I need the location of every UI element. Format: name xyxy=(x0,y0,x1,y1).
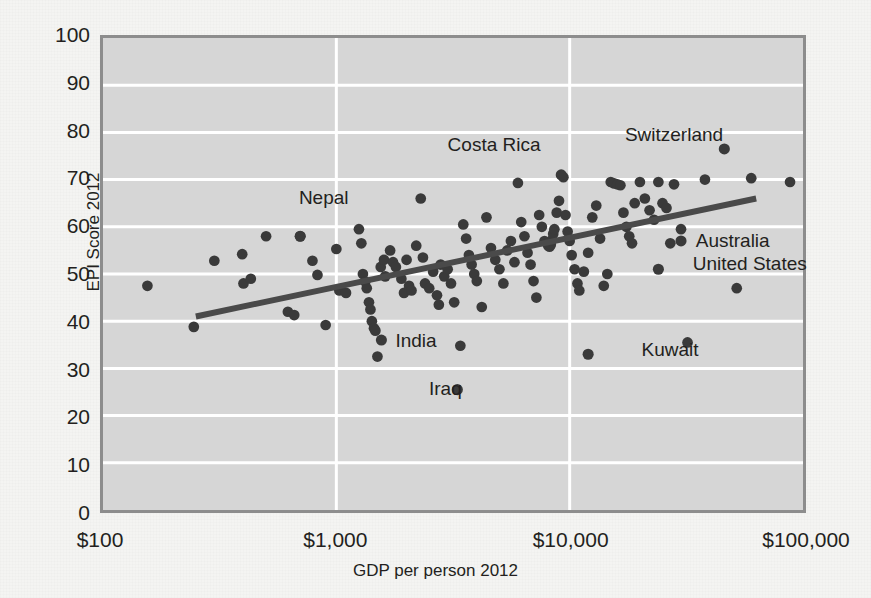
highlighted-data-point xyxy=(719,143,730,154)
data-point xyxy=(785,177,796,188)
data-point xyxy=(455,340,466,351)
data-point xyxy=(245,273,256,284)
data-point xyxy=(653,177,664,188)
data-point xyxy=(591,200,602,211)
data-point xyxy=(356,238,367,249)
data-point xyxy=(237,249,248,260)
data-point xyxy=(574,285,585,296)
x-axis-tick-label: $1,000 xyxy=(303,529,367,550)
data-point xyxy=(446,278,457,289)
data-point xyxy=(385,245,396,256)
data-point xyxy=(598,280,609,291)
highlighted-data-point xyxy=(376,335,387,346)
scatter-plot-canvas xyxy=(103,38,803,510)
data-point xyxy=(525,259,536,270)
data-point xyxy=(476,302,487,313)
data-point xyxy=(401,255,412,266)
highlighted-data-point xyxy=(556,169,567,180)
data-point xyxy=(528,276,539,287)
data-point xyxy=(635,177,646,188)
highlighted-data-point xyxy=(295,231,306,242)
y-axis-tick-label: 0 xyxy=(38,502,90,523)
data-point xyxy=(587,212,598,223)
data-point xyxy=(494,264,505,275)
x-axis-tick-label: $10,000 xyxy=(533,529,609,550)
data-point xyxy=(583,247,594,258)
point-label-australia: Australia xyxy=(696,231,770,250)
data-point xyxy=(289,310,300,321)
y-axis-tick-label: 20 xyxy=(38,406,90,427)
data-point xyxy=(471,276,482,287)
data-point xyxy=(307,255,318,266)
data-point xyxy=(615,180,626,191)
point-label-kuwait: Kuwait xyxy=(642,340,699,359)
point-label-nepal: Nepal xyxy=(299,188,349,207)
data-point xyxy=(731,283,742,294)
data-point xyxy=(602,269,613,280)
data-point xyxy=(531,292,542,303)
y-axis-tick-label: 60 xyxy=(38,215,90,236)
highlighted-data-point xyxy=(653,264,664,275)
data-point xyxy=(554,196,565,207)
data-point xyxy=(639,193,650,204)
data-point xyxy=(506,236,517,247)
data-point xyxy=(629,198,640,209)
data-point xyxy=(560,210,571,221)
point-label-india: India xyxy=(395,331,436,350)
data-point xyxy=(516,217,527,228)
data-point xyxy=(644,205,655,216)
data-point xyxy=(669,179,680,190)
data-point xyxy=(676,224,687,235)
data-point xyxy=(578,266,589,277)
data-point xyxy=(331,244,342,255)
data-point xyxy=(458,219,469,230)
data-point xyxy=(432,290,443,301)
data-point xyxy=(519,231,530,242)
y-axis-tick-label: 10 xyxy=(38,454,90,475)
point-label-iraq: Iraq xyxy=(429,379,462,398)
y-axis-tick-label: 80 xyxy=(38,120,90,141)
data-point xyxy=(261,231,272,242)
point-label-united-states: United States xyxy=(693,254,807,273)
data-point xyxy=(379,255,390,266)
chart-figure: EPI Score 2012 0102030405060708090100 Ne… xyxy=(0,0,871,598)
data-point xyxy=(665,238,676,249)
highlighted-data-point xyxy=(583,349,594,360)
point-label-costa-rica: Costa Rica xyxy=(448,135,541,154)
data-point xyxy=(661,203,672,214)
data-point xyxy=(411,240,422,251)
data-point xyxy=(627,238,638,249)
data-point xyxy=(509,257,520,268)
y-axis-tick-label: 90 xyxy=(38,72,90,93)
data-point xyxy=(341,288,352,299)
data-point xyxy=(498,278,509,289)
data-point xyxy=(618,207,629,218)
data-point xyxy=(372,351,383,362)
data-point xyxy=(433,299,444,310)
data-point xyxy=(209,255,220,266)
x-axis-title: GDP per person 2012 xyxy=(0,561,871,581)
data-point xyxy=(569,264,580,275)
point-label-switzerland: Switzerland xyxy=(625,125,723,144)
y-axis-tick-label: 100 xyxy=(38,24,90,45)
data-point xyxy=(700,174,711,185)
y-axis-tick-label: 70 xyxy=(38,167,90,188)
data-point xyxy=(746,173,757,184)
data-point xyxy=(549,224,560,235)
y-axis-tick-label: 30 xyxy=(38,359,90,380)
plot-area xyxy=(100,35,806,513)
data-point xyxy=(370,325,381,336)
data-point xyxy=(312,270,323,281)
data-point xyxy=(513,178,524,189)
data-point xyxy=(415,193,426,204)
data-point xyxy=(481,212,492,223)
data-point xyxy=(534,210,545,221)
data-point xyxy=(566,250,577,261)
data-point xyxy=(365,304,376,315)
trendline xyxy=(196,198,756,316)
data-point xyxy=(418,252,429,263)
data-point xyxy=(461,233,472,244)
data-point xyxy=(537,221,548,232)
data-point xyxy=(406,285,417,296)
y-axis-tick-label: 40 xyxy=(38,311,90,332)
